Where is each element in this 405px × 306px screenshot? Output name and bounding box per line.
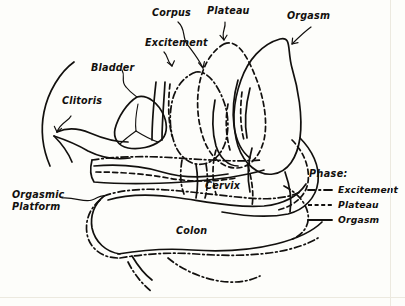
- label-orgasmic-platform-line1: Orgasmic: [12, 190, 65, 200]
- colon-shape: [118, 222, 322, 292]
- legend-swatch-dashed-icon: [307, 201, 333, 209]
- legend-title: Phase:: [309, 168, 403, 179]
- legend-label-plateau: Plateau: [338, 199, 379, 210]
- leader-line-excitement: [164, 52, 174, 66]
- label-bladder: Bladder: [91, 63, 134, 73]
- legend-swatch-dash-dot-icon: [307, 186, 333, 194]
- clitoris-shape: [57, 129, 128, 142]
- leader-line-orgasm: [292, 27, 311, 44]
- urethra-canal: [152, 82, 165, 140]
- bladder-shape: [115, 96, 167, 148]
- label-corpus: Corpus: [152, 8, 191, 18]
- legend-item-orgasm: Orgasm: [307, 214, 403, 225]
- label-excitement: Excitement: [145, 38, 208, 48]
- cervix-detail: [213, 80, 250, 166]
- label-orgasmic-platform-line2: Platform: [12, 202, 60, 212]
- leader-line-bladder: [122, 70, 137, 97]
- uterus-orgasm-outline: [234, 39, 301, 212]
- page-edge-bottom: [0, 297, 405, 298]
- label-cervix: Cervix: [205, 181, 240, 191]
- legend-item-excitement: Excitement: [307, 184, 403, 195]
- leader-line-orgasmic-platform: [62, 196, 104, 201]
- legend: Phase: Excitement Plateau Orgasm: [307, 168, 403, 229]
- leader-line-plateau: [220, 22, 227, 40]
- page-edge-right: [390, 0, 391, 306]
- label-clitoris: Clitoris: [62, 96, 102, 106]
- legend-label-orgasm: Orgasm: [338, 214, 379, 225]
- label-plateau: Plateau: [207, 6, 250, 16]
- legend-swatch-solid-icon: [307, 216, 333, 224]
- label-orgasm: Orgasm: [287, 11, 330, 21]
- label-colon: Colon: [176, 226, 207, 236]
- legend-item-plateau: Plateau: [307, 199, 403, 210]
- outer-body-contour: [42, 62, 130, 166]
